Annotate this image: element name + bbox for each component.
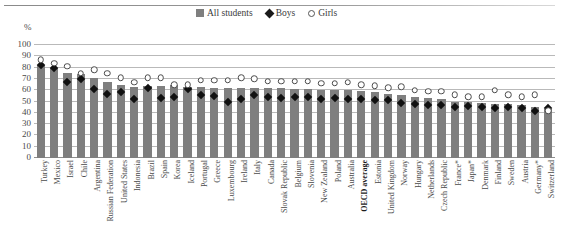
bar-column[interactable] [502, 45, 515, 158]
bar-column[interactable] [475, 45, 488, 158]
marker-girls[interactable] [532, 91, 539, 98]
bar-column[interactable] [448, 45, 461, 158]
marker-girls[interactable] [425, 88, 432, 95]
marker-girls[interactable] [398, 84, 405, 91]
marker-girls[interactable] [224, 77, 231, 84]
legend-item-girls: Girls [308, 8, 337, 18]
bar-column[interactable] [234, 45, 247, 158]
x-axis-label-text: Switzerland [548, 160, 556, 198]
bar-column[interactable] [114, 45, 127, 158]
bar-column[interactable] [462, 45, 475, 158]
marker-girls[interactable] [505, 91, 512, 98]
bar-column[interactable] [315, 45, 328, 158]
bar-column[interactable] [261, 45, 274, 158]
bar-column[interactable] [221, 45, 234, 158]
marker-girls[interactable] [331, 80, 338, 87]
marker-girls[interactable] [345, 79, 352, 86]
bar-all-students[interactable] [77, 74, 85, 158]
marker-girls[interactable] [492, 87, 499, 94]
marker-girls[interactable] [371, 82, 378, 89]
y-axis-tick-0: 0 [27, 152, 32, 162]
bar-column[interactable] [274, 45, 287, 158]
marker-girls[interactable] [144, 75, 151, 82]
marker-girls[interactable] [51, 60, 58, 67]
marker-girls[interactable] [211, 77, 218, 84]
marker-girls[interactable] [411, 87, 418, 94]
marker-girls[interactable] [104, 70, 111, 77]
bar-column[interactable] [248, 45, 261, 158]
bar-column[interactable] [301, 45, 314, 158]
bar-all-students[interactable] [183, 87, 191, 158]
bar-all-students[interactable] [50, 68, 58, 158]
x-axis-label: Korea [168, 160, 181, 246]
x-axis-label: Slovenia [301, 160, 314, 246]
marker-girls[interactable] [198, 77, 205, 84]
bar-all-students[interactable] [143, 86, 151, 158]
marker-girls[interactable] [265, 78, 272, 85]
bar-column[interactable] [542, 45, 555, 158]
bar-column[interactable] [435, 45, 448, 158]
bar-all-students[interactable] [504, 104, 512, 158]
marker-girls[interactable] [238, 75, 245, 82]
x-axis-label: Germany* [528, 160, 541, 246]
bar-column[interactable] [181, 45, 194, 158]
marker-girls[interactable] [385, 85, 392, 92]
bar-column[interactable] [341, 45, 354, 158]
bar-column[interactable] [288, 45, 301, 158]
bar-column[interactable] [194, 45, 207, 158]
bar-column[interactable] [34, 45, 47, 158]
bar-all-students[interactable] [63, 73, 71, 158]
bar-column[interactable] [87, 45, 100, 158]
x-axis-label: Brazil [141, 160, 154, 246]
marker-girls[interactable] [438, 88, 445, 95]
bar-column[interactable] [528, 45, 541, 158]
x-axis-label: Norway [395, 160, 408, 246]
marker-girls[interactable] [37, 56, 44, 63]
bar-column[interactable] [381, 45, 394, 158]
marker-girls[interactable] [251, 76, 258, 83]
marker-girls[interactable] [358, 81, 365, 88]
bar-column[interactable] [141, 45, 154, 158]
bar-column[interactable] [355, 45, 368, 158]
marker-girls[interactable] [78, 70, 85, 77]
bar-all-students[interactable] [517, 105, 525, 158]
bar-column[interactable] [128, 45, 141, 158]
marker-girls[interactable] [291, 78, 298, 85]
x-axis-label: Sweden [502, 160, 515, 246]
bar-column[interactable] [515, 45, 528, 158]
bar-column[interactable] [421, 45, 434, 158]
bar-column[interactable] [168, 45, 181, 158]
x-axis-label: Portugal [194, 160, 207, 246]
bar-column[interactable] [101, 45, 114, 158]
bar-column[interactable] [154, 45, 167, 158]
marker-girls[interactable] [64, 63, 71, 70]
bar-all-students[interactable] [37, 65, 45, 158]
marker-girls[interactable] [452, 91, 459, 98]
marker-girls[interactable] [518, 94, 525, 101]
marker-girls[interactable] [478, 94, 485, 101]
bar-all-students[interactable] [544, 109, 552, 158]
x-axis-label: Switzerland [542, 160, 555, 246]
bar-column[interactable] [328, 45, 341, 158]
marker-girls[interactable] [305, 78, 312, 85]
marker-girls[interactable] [184, 81, 191, 88]
x-axis-label: Turkey [34, 160, 47, 246]
bar-column[interactable] [61, 45, 74, 158]
marker-girls[interactable] [171, 81, 178, 88]
marker-girls[interactable] [158, 75, 165, 82]
marker-girls[interactable] [545, 107, 552, 114]
bar-column[interactable] [368, 45, 381, 158]
bar-swatch-icon [196, 9, 204, 17]
bar-column[interactable] [488, 45, 501, 158]
bar-column[interactable] [395, 45, 408, 158]
bar-column[interactable] [408, 45, 421, 158]
marker-girls[interactable] [465, 94, 472, 101]
marker-girls[interactable] [278, 78, 285, 85]
marker-girls[interactable] [318, 80, 325, 87]
marker-girls[interactable] [131, 79, 138, 86]
marker-girls[interactable] [118, 75, 125, 82]
bar-column[interactable] [74, 45, 87, 158]
bar-column[interactable] [47, 45, 60, 158]
bar-column[interactable] [208, 45, 221, 158]
marker-girls[interactable] [91, 67, 98, 74]
